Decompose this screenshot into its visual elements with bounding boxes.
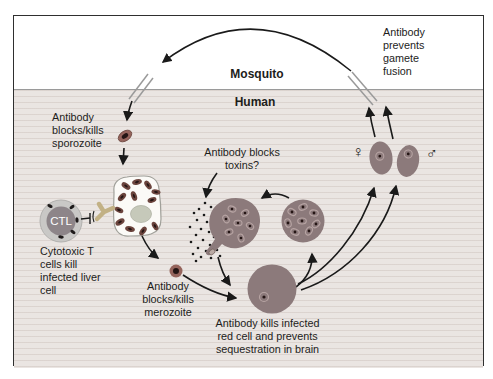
infected-red-cell <box>248 265 297 314</box>
antibody-icon <box>97 204 113 219</box>
female-gametocyte <box>368 140 394 175</box>
left-boundary-hatch-icon <box>129 74 153 103</box>
arrow-male-gamete-to-mosquito <box>386 107 393 139</box>
liver-nucleus <box>131 206 152 223</box>
arrow-sporozoite-to-liver <box>123 148 124 164</box>
arrow-ruptured-to-redcell <box>218 257 230 285</box>
female-symbol: ♀ <box>352 144 364 160</box>
right-boundary-hatch-icon <box>348 72 377 105</box>
label-antibody-kills-red-cell: Antibody kills infected red cell and pre… <box>185 317 350 356</box>
figure-canvas: Mosquito Human Antibody prevents gamete … <box>0 0 493 379</box>
label-antibody-prevents-gamete-fusion: Antibody prevents gamete fusion <box>383 26 455 78</box>
arrow-schizont-to-ruptured <box>262 194 289 198</box>
label-antibody-blocks-merozoite: Antibody blocks/kills merozoite <box>124 280 212 319</box>
arrow-female-gamete-to-mosquito <box>369 108 375 137</box>
arrow-toxins-label <box>206 173 217 197</box>
merozoite-cell <box>170 265 183 278</box>
ruptured-red-cell <box>206 198 260 256</box>
label-cytotoxic-t-cells: Cytotoxic T cells kill infected liver ce… <box>40 245 132 297</box>
schizont-cell <box>282 200 325 243</box>
infected-liver-cell <box>114 176 161 237</box>
arrow-redcell-to-schizont <box>296 254 312 287</box>
male-symbol: ♂ <box>426 146 438 162</box>
tcr-antibody-contact <box>81 204 113 224</box>
ctl-cell-label: CTL <box>44 215 78 228</box>
mosquito-region-label: Mosquito <box>212 68 302 81</box>
arrow-liver-to-merozoite <box>142 236 158 258</box>
label-antibody-blocks-toxins: Antibody blocks toxins? <box>188 146 296 172</box>
mosquito-cycle-arc <box>163 29 351 71</box>
label-antibody-blocks-sporozoite: Antibody blocks/kills sporozoite <box>52 111 134 150</box>
male-gametocyte <box>394 143 421 178</box>
human-region-label: Human <box>212 96 298 109</box>
